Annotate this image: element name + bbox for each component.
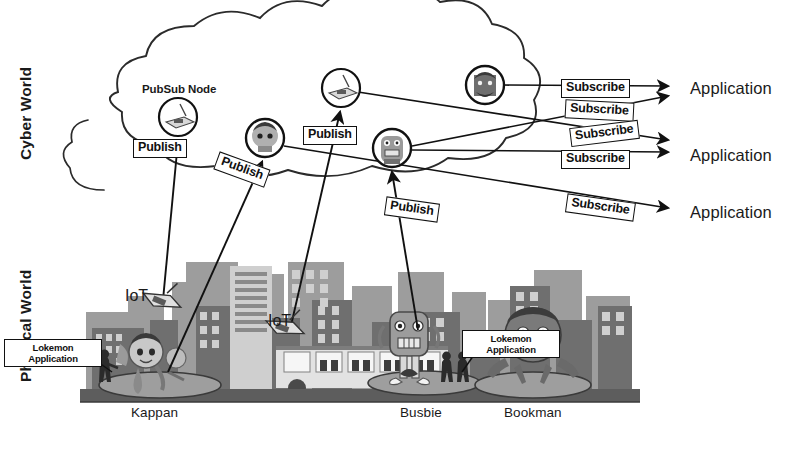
- pubsub-node-1[interactable]: [159, 98, 197, 136]
- pubsub-node-4[interactable]: [373, 129, 411, 167]
- character-name-busbie: Busbie: [400, 406, 442, 420]
- character-name-kappan: Kappan: [131, 406, 178, 420]
- character-name-bookman: Bookman: [504, 406, 562, 420]
- callout-right-line2: Application: [468, 344, 554, 355]
- callout-left-line2: Application: [10, 353, 96, 364]
- application-label-1[interactable]: Application: [690, 80, 772, 97]
- lokemon-application-callout-left[interactable]: Lokemon Application: [4, 339, 102, 367]
- pubsub-node-2[interactable]: [246, 119, 284, 157]
- subscribe-tag-2[interactable]: Subscribe: [565, 99, 635, 121]
- callout-left-line1: Lokemon: [10, 342, 96, 353]
- diagram-svg: [0, 0, 809, 449]
- subscribe-tag-1[interactable]: Subscribe: [561, 79, 630, 98]
- lokemon-application-callout-right[interactable]: Lokemon Application: [462, 330, 560, 358]
- iot-label-2: IoT: [268, 313, 291, 329]
- city-tower: [230, 266, 272, 390]
- diagram-canvas: Cyber World Physical World PubSub Node P…: [0, 0, 809, 449]
- application-label-2[interactable]: Application: [690, 147, 772, 164]
- pubsub-node-3[interactable]: [322, 69, 360, 107]
- pubsub-node-caption: PubSub Node: [142, 84, 216, 96]
- region-label-cyber-world: Cyber World: [18, 67, 34, 160]
- pubsub-node-5[interactable]: [466, 66, 504, 104]
- iot-label-1: IoT: [125, 288, 148, 304]
- publish-tag-3[interactable]: Publish: [303, 126, 357, 145]
- callout-right-line1: Lokemon: [468, 333, 554, 344]
- application-label-3[interactable]: Application: [690, 204, 772, 221]
- publish-tag-1[interactable]: Publish: [133, 139, 187, 158]
- subscribe-tag-4[interactable]: Subscribe: [561, 150, 630, 169]
